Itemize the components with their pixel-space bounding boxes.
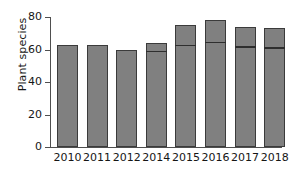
bar-segment-divider-2015 [175,45,196,46]
bar-segment-divider-2018 [264,47,285,48]
bar-rect-2011 [87,45,108,147]
bar-2014 [146,43,167,147]
bar-rect-2014 [146,43,167,147]
bar-2011 [87,45,108,147]
x-tick-label-2018: 2018 [255,152,291,164]
bar-segment-divider-2017 [235,46,256,47]
bar-chart: Plant species 0 20 40 60 80 201020112012… [0,0,291,180]
bar-2015 [175,25,196,147]
bar-2018 [264,28,285,147]
bar-2017 [235,27,256,147]
bar-rect-2012 [116,50,137,148]
bar-segment-divider-2014 [146,51,167,52]
bar-rect-2010 [57,45,78,147]
bar-segment-divider-2016 [205,42,226,43]
bar-2016 [205,20,226,147]
bar-2012 [116,50,137,148]
bar-2010 [57,45,78,147]
bar-rect-2015 [175,25,196,147]
bar-rect-2016 [205,20,226,147]
bar-rect-2017 [235,27,256,147]
bar-rect-2018 [264,28,285,147]
